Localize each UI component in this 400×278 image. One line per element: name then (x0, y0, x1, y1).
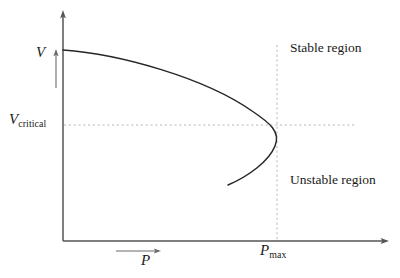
p-max-label: Pmax (260, 243, 286, 258)
y-axis-label-v: V (36, 45, 45, 60)
v-critical-subscript: critical (18, 118, 46, 129)
unstable-region-label: Unstable region (290, 173, 376, 187)
v-critical-label: Vcritical (9, 112, 46, 127)
stable-region-label: Stable region (290, 41, 362, 55)
p-max-symbol: P (260, 242, 269, 258)
equilibrium-curve (63, 50, 277, 185)
v-critical-symbol: V (9, 111, 18, 127)
pv-stability-diagram: V Vcritical Pmax P Stable region Unstabl… (0, 0, 400, 278)
p-max-subscript: max (269, 249, 286, 260)
x-axis-label-p: P (141, 253, 150, 268)
